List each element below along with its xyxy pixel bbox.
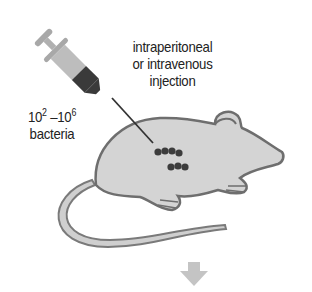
dose-unit: bacteria (8, 125, 96, 142)
route-line-2: or intravenous (118, 55, 228, 72)
route-line-3: injection (118, 72, 228, 89)
dose-range: 102 –106 (8, 108, 96, 125)
down-arrow-icon (180, 262, 208, 286)
route-label: intraperitoneal or intravenous injection (118, 38, 228, 89)
dose-label: 102 –106 bacteria (8, 108, 96, 142)
route-line-1: intraperitoneal (118, 38, 228, 55)
